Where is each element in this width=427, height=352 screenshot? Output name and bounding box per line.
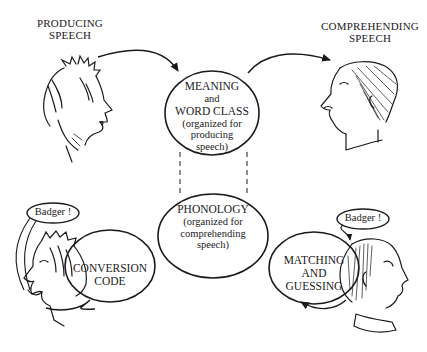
caption-producing-line1: PRODUCING	[30, 17, 110, 29]
dashed-connectors	[180, 152, 247, 194]
matching-line2: AND	[267, 267, 361, 280]
meaning-node-label: MEANING and WORD CLASS (organized for pr…	[162, 80, 262, 153]
phonology-node-label: PHONOLOGY (organized for comprehending s…	[158, 203, 268, 251]
arrow-producer-to-meaning	[98, 50, 178, 71]
caption-comprehending-line2: SPEECH	[320, 32, 420, 44]
producer-head-top-left	[44, 56, 112, 162]
listener-head-top-right	[321, 62, 397, 150]
conversion-line1: CONVERSION	[70, 262, 150, 275]
phonology-line1: PHONOLOGY	[158, 203, 268, 216]
matching-node-label: MATCHING AND GUESSING	[267, 254, 361, 293]
diagram-graphics	[0, 0, 427, 352]
meaning-line3: WORD CLASS	[162, 105, 262, 118]
arrow-meaning-to-comprehender	[248, 54, 330, 73]
arrow-conversion-to-speaker	[46, 300, 95, 310]
speech-bubble-left-text: Badger !	[30, 206, 76, 218]
caption-comprehending-speech: COMPREHENDING SPEECH	[320, 20, 420, 45]
caption-producing-speech: PRODUCING SPEECH	[30, 17, 110, 42]
conversion-node-label: CONVERSION CODE	[70, 262, 150, 288]
phonology-line2: (organized for	[158, 216, 268, 228]
matching-line1: MATCHING	[267, 254, 361, 267]
phonology-line3: comprehending	[158, 228, 268, 240]
phonology-line4: speech)	[158, 239, 268, 251]
meaning-line4: (organized for	[162, 118, 262, 130]
speech-model-diagram: PRODUCING SPEECH COMPREHENDING SPEECH ME…	[0, 0, 427, 352]
caption-producing-line2: SPEECH	[30, 29, 110, 41]
speech-bubble-right-text: Badger !	[340, 212, 386, 224]
meaning-line2: and	[162, 93, 262, 105]
meaning-line5: producing	[162, 129, 262, 141]
caption-comprehending-line1: COMPREHENDING	[320, 20, 420, 32]
conversion-line2: CODE	[70, 275, 150, 288]
meaning-line6: speech)	[162, 141, 262, 153]
meaning-line1: MEANING	[162, 80, 262, 93]
matching-line3: GUESSING	[267, 280, 361, 293]
